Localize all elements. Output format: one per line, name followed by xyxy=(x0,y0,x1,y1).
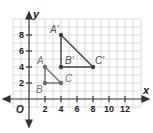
x-tick-label: 8 xyxy=(90,104,95,114)
x-axis-left-arrow-icon xyxy=(3,96,10,102)
x-tick-label: 4 xyxy=(58,104,63,114)
y-axis-down-arrow-icon xyxy=(26,120,32,127)
y-tick-label: 2 xyxy=(19,78,24,88)
x-tick-label: 2 xyxy=(42,104,47,114)
grid xyxy=(13,19,141,107)
x-tick-label: 10 xyxy=(104,104,114,114)
label-a: A xyxy=(36,55,44,66)
x-axis-right-arrow-icon xyxy=(142,96,149,102)
y-tick-label: 6 xyxy=(19,46,24,56)
point-b-prime xyxy=(59,65,63,69)
x-axis-label: x xyxy=(142,84,150,96)
coordinate-plane: y x O 2 4 6 8 10 12 2 4 6 8 A B C A′ B′ … xyxy=(0,0,153,133)
point-b xyxy=(43,81,47,85)
y-tick-label: 4 xyxy=(19,62,24,72)
y-axis-up-arrow-icon xyxy=(26,12,32,19)
label-a-prime: A′ xyxy=(49,24,60,35)
label-b: B xyxy=(36,84,43,95)
x-tick-label: 12 xyxy=(120,104,130,114)
x-tick-label: 6 xyxy=(74,104,79,114)
origin-label: O xyxy=(16,104,24,115)
point-a-prime xyxy=(59,33,63,37)
y-axis-label: y xyxy=(32,8,40,20)
y-tick-label: 8 xyxy=(19,30,24,40)
label-b-prime: B′ xyxy=(65,55,75,66)
label-c: C xyxy=(65,73,73,84)
label-c-prime: C′ xyxy=(95,55,105,66)
point-c xyxy=(59,81,63,85)
